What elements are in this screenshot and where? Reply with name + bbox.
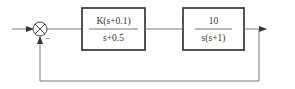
controller-denominator: s+0.5 [103,33,124,43]
plant-block: 10 s(s+1) [183,8,244,50]
block-diagram: − K(s+0.1) s+0.5 10 s(s+1) [0,0,295,89]
minus-sign: − [45,33,50,43]
controller-block: K(s+0.1) s+0.5 [82,8,145,50]
plant-numerator: 10 [209,16,219,26]
plant-denominator: s(s+1) [202,33,226,44]
controller-numerator: K(s+0.1) [96,16,130,27]
